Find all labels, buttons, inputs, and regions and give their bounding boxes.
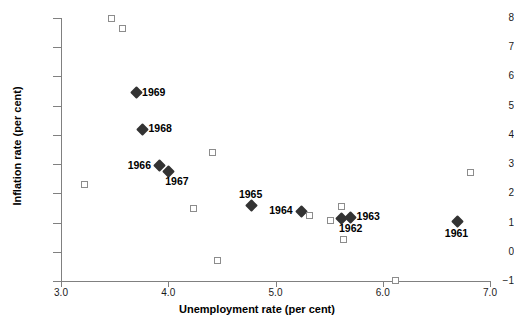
data-point-square	[467, 169, 474, 176]
data-point-square	[340, 236, 347, 243]
y-tick-label: 2	[468, 188, 514, 198]
x-axis-title: Unemployment rate (per cent)	[0, 303, 514, 315]
y-tick-mark	[53, 106, 62, 107]
y-tick-mark	[53, 18, 62, 19]
data-point-label: 1964	[269, 205, 292, 216]
data-point-diamond	[130, 86, 143, 99]
data-point-square	[306, 212, 313, 219]
y-tick-mark	[53, 193, 62, 194]
data-point-label: 1967	[165, 176, 188, 187]
y-axis-title: Inflation rate (per cent)	[11, 71, 23, 221]
y-tick-label: 8	[468, 13, 514, 23]
y-tick-mark	[53, 252, 62, 253]
y-tick-label: 3	[468, 159, 514, 169]
scatter-chart: 876543210−13.04.05.06.07.0 1969196819661…	[0, 0, 514, 328]
data-point-square	[392, 277, 399, 284]
data-point-diamond	[136, 123, 149, 136]
data-point-square	[119, 25, 126, 32]
data-point-label: 1961	[445, 228, 468, 239]
y-tick-mark	[53, 76, 62, 77]
data-point-square	[190, 205, 197, 212]
data-point-label: 1962	[339, 223, 362, 234]
data-point-label: 1963	[357, 211, 380, 222]
data-point-square	[327, 217, 334, 224]
data-point-square	[338, 203, 345, 210]
y-tick-mark	[53, 47, 62, 48]
data-point-square	[108, 15, 115, 22]
x-tick-label: 4.0	[148, 287, 188, 298]
y-tick-label: 5	[468, 101, 514, 111]
x-tick-label: 7.0	[470, 287, 510, 298]
x-tick-label: 3.0	[41, 287, 81, 298]
x-tick-label: 5.0	[256, 287, 296, 298]
data-point-square	[209, 149, 216, 156]
y-tick-mark	[53, 164, 62, 165]
x-tick-label: 6.0	[363, 287, 403, 298]
data-point-square	[81, 181, 88, 188]
data-point-diamond	[246, 199, 259, 212]
data-point-label: 1969	[142, 87, 165, 98]
y-tick-label: 6	[468, 71, 514, 81]
data-point-square	[214, 257, 221, 264]
y-tick-mark	[53, 135, 62, 136]
y-tick-label: 4	[468, 130, 514, 140]
y-tick-label: 7	[468, 42, 514, 52]
y-axis-line	[61, 18, 62, 282]
y-tick-mark	[53, 223, 62, 224]
data-point-label: 1965	[239, 189, 262, 200]
y-tick-label: 1	[468, 218, 514, 228]
y-tick-label: 0	[468, 247, 514, 257]
y-tick-label: −1	[468, 276, 514, 286]
data-point-label: 1966	[128, 160, 151, 171]
data-point-label: 1968	[149, 123, 172, 134]
